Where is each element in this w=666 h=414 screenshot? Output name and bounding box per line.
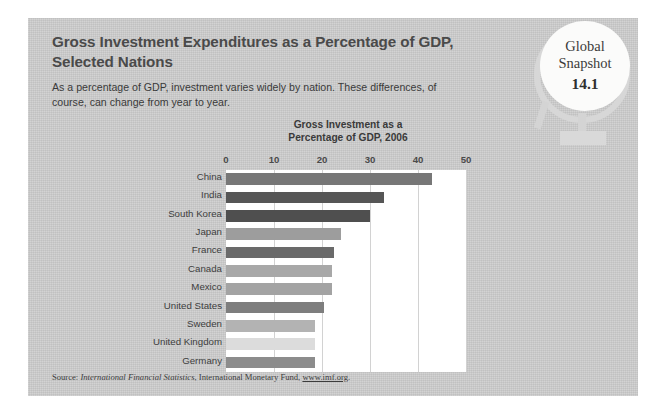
category-label: Canada	[188, 263, 222, 274]
global-snapshot-badge: Global Snapshot 14.1	[518, 13, 648, 143]
x-axis-tick: 10	[269, 154, 280, 165]
bar-row: Japan	[226, 225, 466, 243]
category-label: Sweden	[187, 318, 222, 329]
x-axis-tick: 0	[223, 154, 228, 165]
badge-number: 14.1	[571, 74, 598, 94]
bar-row: United States	[226, 299, 466, 317]
bar-row: United Kingdom	[226, 335, 466, 353]
global-snapshot-figure: Gross Investment Expenditures as a Perce…	[0, 0, 666, 414]
bar-rows: ChinaIndiaSouth KoreaJapanFranceCanadaMe…	[226, 170, 466, 372]
bar	[226, 247, 334, 259]
x-axis-tick: 30	[365, 154, 376, 165]
x-axis-tick: 50	[461, 154, 472, 165]
bar-row: South Korea	[226, 207, 466, 225]
category-label: Mexico	[191, 281, 222, 292]
x-axis-tick: 40	[413, 154, 424, 165]
source-url-link[interactable]: www.imf.org	[302, 372, 348, 382]
category-label: France	[192, 244, 222, 255]
bar-row: Sweden	[226, 317, 466, 335]
category-label: Germany	[182, 355, 222, 366]
figure-panel: Gross Investment Expenditures as a Perce…	[28, 18, 638, 396]
figure-subtitle: As a percentage of GDP, investment varie…	[52, 80, 452, 111]
bar-row: Germany	[226, 354, 466, 372]
bar	[226, 192, 384, 204]
page-title: Gross Investment Expenditures as a Perce…	[52, 32, 492, 72]
bar	[226, 283, 332, 295]
bar-row: China	[226, 170, 466, 188]
badge-line-2: Snapshot	[558, 55, 611, 73]
globe-arm-icon	[534, 101, 549, 130]
category-label: China	[197, 171, 222, 182]
globe-icon: Global Snapshot 14.1	[540, 21, 630, 111]
bar	[226, 228, 341, 240]
source-suffix: .	[348, 372, 350, 382]
chart-title-line-1: Gross Investment as a	[203, 118, 493, 131]
category-label: United States	[164, 300, 222, 311]
globe-base-icon	[560, 131, 606, 145]
bar	[226, 210, 370, 222]
bar-row: Canada	[226, 262, 466, 280]
bar	[226, 357, 315, 369]
chart-title-line-2: Percentage of GDP, 2006	[203, 131, 493, 144]
x-axis: 01020304050	[226, 154, 466, 168]
bar	[226, 173, 432, 185]
source-middle: , International Monetary Fund,	[195, 372, 303, 382]
bar	[226, 265, 332, 277]
bar-row: Mexico	[226, 280, 466, 298]
bar	[226, 338, 315, 350]
category-label: India	[201, 189, 222, 200]
chart-title: Gross Investment as a Percentage of GDP,…	[203, 118, 493, 145]
category-label: Japan	[196, 226, 222, 237]
x-axis-tick: 20	[317, 154, 328, 165]
bar-chart: 01020304050 ChinaIndiaSouth KoreaJapanFr…	[198, 154, 498, 384]
category-label: South Korea	[168, 208, 222, 219]
bar	[226, 302, 324, 314]
bar	[226, 320, 315, 332]
bar-row: France	[226, 243, 466, 261]
bar-row: India	[226, 188, 466, 206]
badge-line-1: Global	[565, 38, 604, 56]
source-publication: International Financial Statistics	[80, 372, 194, 382]
source-note: Source: International Financial Statisti…	[52, 372, 350, 382]
source-prefix: Source:	[52, 372, 80, 382]
plot-area: ChinaIndiaSouth KoreaJapanFranceCanadaMe…	[226, 170, 466, 372]
gridline	[466, 170, 467, 372]
category-label: United Kingdom	[153, 336, 222, 347]
